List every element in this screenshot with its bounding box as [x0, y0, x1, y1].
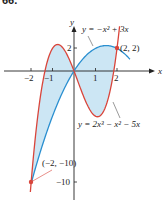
- curve2-label: y = 2x³ − x² − 5x: [77, 119, 140, 129]
- tick-label-2: 2: [114, 73, 119, 83]
- tick-label-y2: 2: [67, 43, 72, 53]
- x-axis-label: x: [157, 66, 162, 76]
- leader-line-curve1: [88, 36, 93, 46]
- tick-label-1: 1: [93, 73, 98, 83]
- intersection-point-2-2: [115, 46, 119, 50]
- tick-label-neg2: −2: [24, 73, 34, 83]
- curve1-label: y = −x² + 3x: [81, 24, 128, 34]
- point1-label: (2, 2): [120, 43, 140, 53]
- leader-line-curve2: [113, 102, 120, 118]
- area-between-curves-plot: x y −2 −1 1 2 2 −10 y = −x² + 3x y = 2x³…: [0, 0, 167, 222]
- tick-label-neg1: −1: [44, 73, 54, 83]
- point2-label: (−2, −10): [42, 158, 76, 168]
- y-axis-label: y: [69, 17, 74, 27]
- tick-label-yneg10: −10: [56, 177, 71, 187]
- x-axis-arrow-icon: [149, 69, 155, 74]
- intersection-point-neg2-neg10: [29, 180, 33, 184]
